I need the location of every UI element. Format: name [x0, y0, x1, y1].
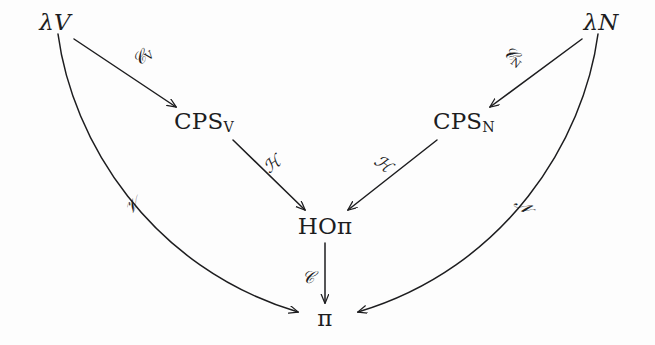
- node-cps-v-base: CPS: [174, 108, 223, 134]
- node-cps-v[interactable]: CPSV: [174, 110, 234, 134]
- node-cps-n[interactable]: CPSN: [433, 110, 495, 134]
- node-lambda-v[interactable]: λV: [39, 11, 71, 34]
- node-pi[interactable]: π: [317, 307, 332, 330]
- diagram-edges-layer: [0, 0, 655, 345]
- node-lambda-n[interactable]: λN: [583, 11, 618, 34]
- node-lambda-n-label: λN: [583, 9, 618, 35]
- edge-h-right-arrow: [348, 140, 437, 210]
- node-cps-n-subscript: N: [482, 119, 495, 135]
- node-lambda-v-label: λV: [39, 9, 71, 35]
- node-pi-label: π: [317, 305, 332, 331]
- node-cps-n-base: CPS: [433, 108, 482, 134]
- node-ho-pi[interactable]: HOπ: [298, 215, 353, 238]
- diagram-canvas: λV λN CPSV CPSN HOπ π 𝒞V 𝒞N ℋ ℋ 𝒞 𝒱 𝒩: [0, 0, 655, 345]
- node-cps-v-subscript: V: [223, 119, 234, 135]
- node-ho-pi-label: HOπ: [298, 213, 353, 239]
- edge-label-c-symbol: 𝒞: [302, 267, 314, 287]
- edge-v-curve: [58, 34, 298, 312]
- edge-cv-arrow: [74, 39, 176, 107]
- edge-label-c: 𝒞: [302, 269, 314, 286]
